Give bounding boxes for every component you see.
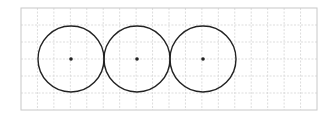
circle-center-dot — [69, 57, 73, 61]
circle-center-dot — [135, 57, 139, 61]
circle-center-dot — [201, 57, 205, 61]
grid-diagram — [0, 0, 330, 118]
grid-lines — [21, 8, 317, 110]
